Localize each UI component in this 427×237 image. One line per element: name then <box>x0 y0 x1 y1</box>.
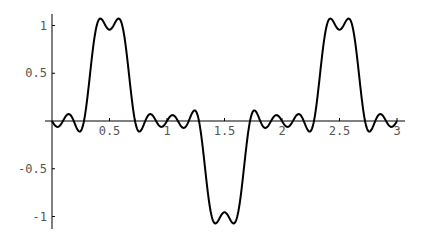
y-tick-label: -0.5 <box>18 162 47 176</box>
y-tick-label: 1 <box>40 19 47 33</box>
x-tick-label: 0.5 <box>99 124 121 138</box>
y-tick-label: -1 <box>33 210 47 224</box>
x-tick-label: 2.5 <box>329 124 351 138</box>
y-tick-label: 0.5 <box>25 66 47 80</box>
plot-area: 0.511.522.53 10.5-0.5-1 <box>0 0 427 237</box>
x-tick-label: 1.5 <box>214 124 236 138</box>
axes: 0.511.522.53 10.5-0.5-1 <box>18 14 405 229</box>
